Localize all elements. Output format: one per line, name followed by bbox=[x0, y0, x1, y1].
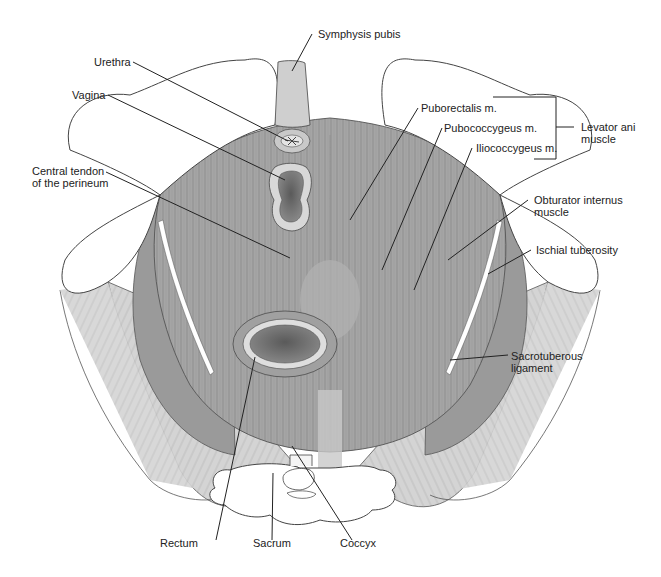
label-pubococcygeus: Pubococcygeus m. bbox=[444, 122, 537, 134]
rectum-shape bbox=[233, 311, 337, 377]
label-sacrotuberous-line2: ligament bbox=[511, 362, 583, 374]
label-vagina: Vagina bbox=[72, 89, 105, 101]
label-levator-ani-line1: Levator ani bbox=[581, 121, 635, 133]
label-puborectalis: Puborectalis m. bbox=[421, 102, 497, 114]
label-levator-ani: Levator ani muscle bbox=[581, 121, 635, 145]
label-central-tendon-line2: of the perineum bbox=[32, 177, 102, 189]
pelvic-floor-diagram: Symphysis pubis Urethra Vagina Central t… bbox=[0, 0, 661, 577]
label-urethra: Urethra bbox=[94, 56, 131, 68]
label-coccyx: Coccyx bbox=[340, 537, 376, 549]
vagina-shape bbox=[269, 163, 311, 231]
label-symphysis-pubis: Symphysis pubis bbox=[318, 28, 401, 40]
label-rectum: Rectum bbox=[160, 537, 198, 549]
label-sacrum: Sacrum bbox=[253, 537, 291, 549]
label-sacrotuberous-line1: Sacrotuberous bbox=[511, 350, 583, 362]
label-sacrotuberous-ligament: Sacrotuberous ligament bbox=[511, 350, 583, 374]
label-obturator-line2: muscle bbox=[534, 206, 623, 218]
urethra-shape bbox=[274, 129, 310, 153]
label-levator-ani-line2: muscle bbox=[581, 133, 635, 145]
label-obturator-internus: Obturator internus muscle bbox=[534, 194, 623, 218]
label-central-tendon: Central tendon of the perineum bbox=[32, 165, 102, 189]
label-obturator-line1: Obturator internus bbox=[534, 194, 623, 206]
label-ischial-tuberosity: Ischial tuberosity bbox=[536, 244, 618, 256]
label-central-tendon-line1: Central tendon bbox=[32, 165, 102, 177]
anococcygeal-raphe-shape bbox=[318, 390, 342, 470]
label-iliococcygeus: Iliococcygeus m. bbox=[476, 142, 557, 154]
